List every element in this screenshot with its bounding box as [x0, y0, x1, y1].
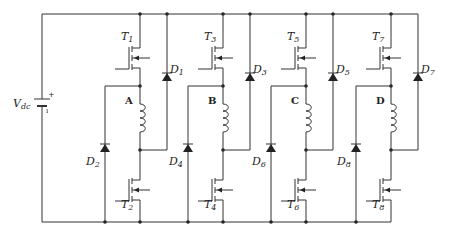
diode-d8-icon: [351, 144, 361, 152]
winding-b-icon: [223, 102, 228, 138]
minus-sign: ı: [46, 107, 49, 115]
vdc-label: Vdc: [13, 97, 31, 111]
phase-c: T5 D5 C D6 T6: [251, 12, 350, 224]
label-d7: D7: [420, 63, 436, 77]
label-phase-d: D: [376, 95, 385, 106]
label-d8: D8: [336, 155, 351, 169]
mosfet-t7-icon: [366, 40, 401, 76]
mosfet-t3-icon: [198, 40, 233, 76]
label-d6: D6: [251, 155, 266, 169]
label-phase-c: C: [291, 95, 299, 106]
label-t5: T5: [287, 30, 299, 44]
label-d1: D1: [169, 63, 184, 77]
label-t7: T7: [372, 30, 385, 44]
phase-d: T7 D7 D D8 T8: [336, 12, 436, 224]
diode-d6-icon: [266, 144, 276, 152]
winding-a-icon: [140, 102, 145, 138]
diode-d4-icon: [183, 144, 193, 152]
label-d2: D2: [85, 155, 100, 169]
label-phase-b: B: [208, 95, 216, 106]
phase-b: T3 D3 B D4 T4: [168, 12, 267, 224]
diode-d2-icon: [100, 144, 110, 152]
winding-c-icon: [306, 102, 311, 138]
mosfet-t5-icon: [281, 40, 316, 76]
label-d4: D4: [168, 155, 183, 169]
label-d3: D3: [252, 63, 267, 77]
label-phase-a: A: [124, 95, 133, 106]
winding-d-icon: [391, 102, 396, 138]
phase-a: T1 D1 A D2 T2: [85, 12, 184, 224]
label-d5: D5: [335, 63, 350, 77]
plus-sign: +: [48, 90, 55, 99]
asymmetric-half-bridge-converter-diagram: + ı Vdc T1 D1 A D2 T2: [0, 0, 456, 236]
label-t3: T3: [204, 30, 216, 44]
label-t1: T1: [121, 30, 133, 44]
mosfet-t1-icon: [115, 40, 150, 76]
